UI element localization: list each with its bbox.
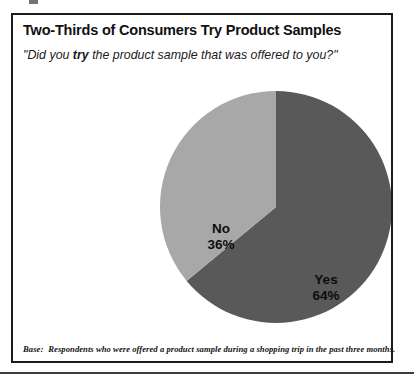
pie-label-yes-name: Yes — [314, 272, 337, 287]
pie-label-no-name: No — [212, 221, 230, 236]
pie-label-yes-value: 64% — [295, 288, 357, 304]
base-note-text: Respondents who were offered a product s… — [48, 344, 395, 354]
page-title: Two-Thirds of Consumers Try Product Samp… — [23, 22, 341, 38]
question-emphasis: try — [73, 48, 89, 62]
pie-label-yes: Yes 64% — [295, 272, 357, 304]
figure-box: Two-Thirds of Consumers Try Product Samp… — [11, 13, 393, 363]
question-prefix: "Did you — [23, 48, 73, 62]
page-separator-rule — [0, 372, 414, 374]
cropped-text-fragment — [29, 0, 38, 4]
question-suffix: the product sample that was offered to y… — [89, 48, 338, 62]
base-note: Base:Respondents who were offered a prod… — [23, 344, 383, 354]
pie-label-no-value: 36% — [191, 237, 251, 253]
survey-question: "Did you try the product sample that was… — [23, 48, 338, 62]
pie-label-no: No 36% — [191, 221, 251, 253]
pie-chart: No 36% Yes 64% — [13, 75, 391, 325]
base-note-label: Base: — [23, 344, 43, 354]
